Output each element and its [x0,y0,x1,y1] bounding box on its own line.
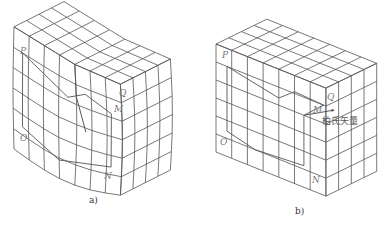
label-a-Q: Q [119,88,127,98]
label-b-O: O [220,137,228,147]
panel-b-perfect-lattice [216,19,377,196]
label-a-N: N [103,171,113,181]
label-a-M: M [113,104,124,114]
label-a-P: P [19,46,27,56]
caption-a: a) [89,195,98,205]
caption-b: b) [295,206,304,216]
lattice-diagram: P Q M O N a) P Q M O N 柏氏矢量 b) [0,0,388,226]
burgers-vector-label: 柏氏矢量 [322,115,358,126]
label-b-N: N [311,175,321,185]
label-b-Q: Q [327,92,335,102]
label-a-O: O [20,133,28,143]
label-b-M: M [312,105,323,115]
label-b-P: P [221,50,229,60]
panel-a-dislocated-lattice [13,2,172,196]
